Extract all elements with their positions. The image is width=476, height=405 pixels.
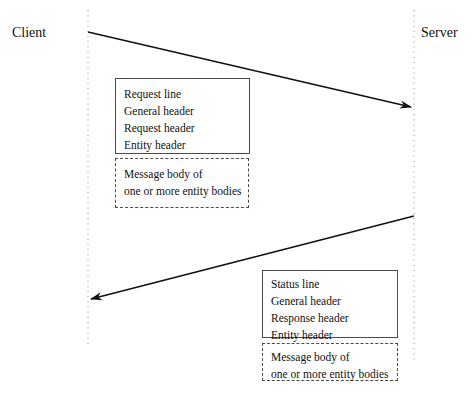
actor-label-client: Client	[12, 26, 46, 40]
request-body-box: Message body of one or more entity bodie…	[115, 158, 249, 208]
request-header-line: Request header	[124, 120, 249, 137]
request-header-line: Entity header	[124, 137, 249, 154]
sequence-diagram: Client Server Request line General heade…	[0, 0, 476, 405]
response-headers-box: Status line General header Response head…	[262, 270, 398, 338]
request-body-line: one or more entity bodies	[124, 183, 248, 200]
request-header-line: Request line	[124, 86, 249, 103]
request-header-line: General header	[124, 103, 249, 120]
response-header-line: Response header	[271, 310, 397, 327]
response-body-box: Message body of one or more entity bodie…	[262, 343, 398, 381]
response-body-line: Message body of	[271, 349, 397, 366]
response-header-line: General header	[271, 293, 397, 310]
actor-label-server: Server	[421, 26, 458, 40]
request-headers-box: Request line General header Request head…	[115, 78, 250, 154]
request-body-line: Message body of	[124, 166, 248, 183]
response-body-line: one or more entity bodies	[271, 366, 397, 383]
response-header-line: Status line	[271, 276, 397, 293]
response-header-line: Entity header	[271, 327, 397, 344]
